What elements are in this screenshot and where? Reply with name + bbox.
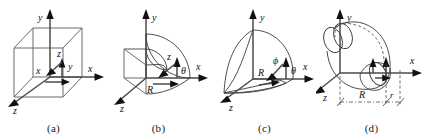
- axis-label-y: y: [37, 12, 43, 23]
- panel-a-diagram: y x z x y z: [0, 0, 107, 118]
- panel-b-diagram: y x z z R θ: [105, 0, 212, 118]
- sector-outer-surface: [224, 30, 293, 93]
- axis-x: [50, 73, 104, 80]
- inner-label-x: x: [35, 65, 41, 76]
- panel-a: y x z x y z (a): [0, 0, 107, 140]
- axis-label-x: x: [195, 61, 201, 72]
- axis-label-z: z: [228, 102, 233, 113]
- panel-d-diagram: y x z R r: [316, 0, 427, 118]
- torus-outer-surface: [327, 22, 390, 90]
- axis-label-z: z: [12, 105, 17, 116]
- figure-root: y x z x y z (a): [0, 0, 427, 140]
- axis-y: [249, 9, 256, 79]
- inner-arrow-y: [59, 58, 66, 77]
- inner-label-theta: θ: [181, 65, 186, 76]
- axis-y: [142, 9, 149, 78]
- axis-label-y: y: [259, 12, 265, 23]
- panel-a-caption: (a): [0, 122, 107, 134]
- inner-label-y: y: [67, 61, 73, 72]
- axis-label-y: y: [151, 12, 157, 23]
- inner-label-R: R: [257, 67, 264, 78]
- axis-label-x: x: [87, 63, 93, 74]
- inner-label-theta: θ: [291, 65, 296, 76]
- inner-label-z: z: [56, 48, 61, 59]
- panel-c-diagram: y x z R ϕ θ: [211, 0, 318, 118]
- panel-b-caption: (b): [105, 122, 212, 134]
- inner-arrow-x: [45, 79, 70, 86]
- inner-arrow-z: [46, 62, 62, 76]
- axis-label-x: x: [302, 61, 308, 72]
- inner-arrow-up-left: [370, 58, 377, 73]
- panel-c: y x z R ϕ θ (c): [211, 0, 318, 140]
- axis-z: [316, 73, 340, 94]
- inner-label-z: z: [166, 51, 171, 62]
- panel-d: y x z R r (d): [316, 0, 427, 140]
- panel-d-caption: (d): [316, 122, 427, 134]
- axis-label-z: z: [322, 92, 327, 103]
- axis-x: [340, 69, 422, 76]
- inner-arrow-R: [153, 81, 179, 88]
- axis-label-z: z: [119, 103, 124, 114]
- sector-inner-lobes: [224, 79, 286, 93]
- axis-y: [46, 9, 53, 77]
- dimension-label-R: R: [358, 89, 365, 100]
- dimension-label-r: r: [390, 90, 394, 100]
- axis-label-y: y: [346, 12, 352, 23]
- inner-label-phi: ϕ: [273, 55, 278, 66]
- panel-b: y x z z R θ (b): [105, 0, 212, 140]
- inner-label-R: R: [146, 84, 153, 95]
- axis-label-x: x: [409, 55, 415, 66]
- panel-c-caption: (c): [211, 122, 318, 134]
- inner-arrow-theta: [282, 57, 289, 79]
